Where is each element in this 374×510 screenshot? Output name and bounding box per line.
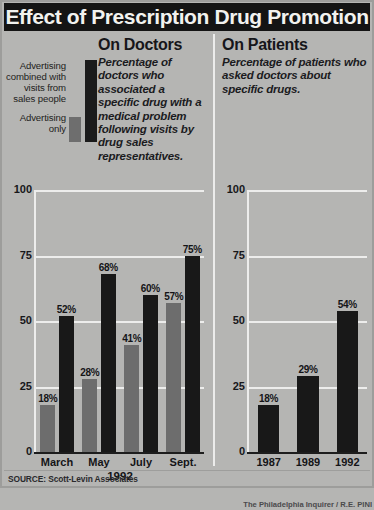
legend-swatch-advertising-only [69, 117, 81, 142]
panel-divider [213, 34, 215, 466]
bar [59, 316, 74, 452]
x-axis-tick: Sept. [156, 456, 210, 468]
bar-value-label: 29% [293, 364, 323, 375]
y-axis-tick: 100 [219, 183, 245, 195]
footer-divider [4, 470, 370, 471]
y-axis-tick: 50 [6, 314, 32, 326]
bar-value-label: 60% [139, 283, 162, 294]
y-axis-tick: 25 [219, 380, 245, 392]
title-bar: Effect of Prescription Drug Promotion [4, 3, 370, 31]
bar-value-label: 18% [254, 393, 284, 404]
x-axis-line [34, 452, 204, 454]
legend-label-advertising-only: Advertising only [4, 112, 66, 134]
gridline [249, 190, 367, 192]
y-axis-tick: 0 [219, 445, 245, 457]
bar [82, 379, 97, 452]
legend-label-combined: Advertising combined with visits from sa… [4, 60, 66, 104]
x-axis-tick: 1992 [322, 456, 373, 468]
gridline [36, 256, 204, 258]
legend-swatch-combined [85, 60, 97, 142]
bar-value-label: 28% [78, 367, 101, 378]
y-axis-tick: 100 [6, 183, 32, 195]
bar-value-label: 18% [36, 393, 59, 404]
bar-value-label: 57% [162, 291, 185, 302]
gridline [249, 256, 367, 258]
bar [101, 274, 116, 452]
bar-value-label: 75% [181, 244, 204, 255]
bar [143, 295, 158, 452]
credit-line: The Philadelphia Inquirer / R.E. PINI [243, 500, 372, 509]
panel-heading-doctors: On Doctors [98, 36, 182, 54]
bar-value-label: 68% [97, 262, 120, 273]
y-axis-tick: 75 [219, 249, 245, 261]
bar [40, 405, 55, 452]
x-axis-line [247, 452, 367, 454]
y-axis-tick: 75 [6, 249, 32, 261]
bar [337, 311, 359, 452]
y-axis-line [34, 190, 36, 452]
y-axis-line [247, 190, 249, 452]
gridline [36, 190, 204, 192]
bar-value-label: 54% [333, 299, 363, 310]
panel-heading-patients: On Patients [222, 36, 308, 54]
bar [258, 405, 280, 452]
infographic-chart: Effect of Prescription Drug Promotion On… [0, 0, 374, 510]
bar [185, 256, 200, 453]
page-title: Effect of Prescription Drug Promotion [4, 3, 370, 31]
bar [297, 376, 319, 452]
source-note: SOURCE: Scott-Levin Associates [8, 474, 138, 484]
chart-patients: 025507510018%198729%198954%1992 [219, 186, 371, 466]
chart-doctors: 025507510018%52%March28%68%May41%60%July… [6, 186, 208, 466]
bar-value-label: 52% [55, 304, 78, 315]
panel-description-doctors: Percentage of doctors who associated a s… [98, 56, 202, 163]
y-axis-tick: 0 [6, 445, 32, 457]
y-axis-tick: 50 [219, 314, 245, 326]
y-axis-tick: 25 [6, 380, 32, 392]
bar [166, 303, 181, 452]
panel-description-patients: Percentage of patients who asked doctors… [222, 56, 370, 96]
bar-value-label: 41% [120, 333, 143, 344]
bar [124, 345, 139, 452]
